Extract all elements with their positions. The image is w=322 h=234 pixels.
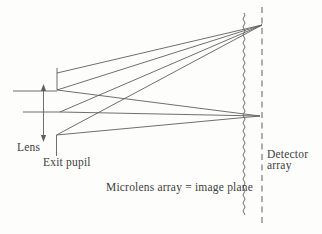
ray-diagram-svg xyxy=(0,0,322,234)
detector-array-label-line2: array xyxy=(267,160,308,171)
exit-pupil-label: Exit pupil xyxy=(43,157,91,168)
lens-label: Lens xyxy=(17,142,40,153)
microlens-array-label: Microlens array = image plane xyxy=(106,182,253,193)
detector-array-label: Detector array xyxy=(267,149,308,170)
lens-arrowhead-down-icon xyxy=(41,135,46,142)
ray-to-top-focus-0 xyxy=(57,25,262,73)
ray-to-top-focus-2 xyxy=(60,25,262,112)
lens-arrowhead-up-icon xyxy=(41,84,46,91)
optical-ray-diagram: Lens Exit pupil Microlens array = image … xyxy=(0,0,322,234)
detector-array-label-line1: Detector xyxy=(267,149,308,160)
